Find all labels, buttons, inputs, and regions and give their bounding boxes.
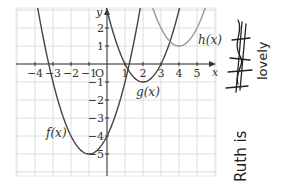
y-tick-label: 2 bbox=[97, 22, 104, 35]
label-gx: g(x) bbox=[136, 85, 160, 99]
handwriting-main: Ruth is bbox=[232, 131, 250, 182]
svg-text:O: O bbox=[95, 67, 104, 80]
svg-text:x: x bbox=[212, 66, 219, 79]
y-tick-label: −4 bbox=[88, 130, 104, 143]
x-tick-label: 2 bbox=[140, 67, 147, 80]
svg-text:y: y bbox=[95, 6, 103, 19]
grid bbox=[16, 8, 216, 176]
y-tick-label: −2 bbox=[88, 94, 104, 107]
x-tick-label: 5 bbox=[194, 67, 201, 80]
label-hx: h(x) bbox=[198, 33, 222, 47]
handwritten-annotation bbox=[226, 20, 252, 92]
axes bbox=[16, 8, 216, 176]
handwriting-side: lovely bbox=[255, 41, 270, 80]
x-tick-label: −3 bbox=[45, 67, 61, 80]
y-tick-label: 1 bbox=[97, 40, 104, 53]
x-tick-label: 4 bbox=[176, 67, 183, 80]
x-tick-label: −4 bbox=[27, 67, 43, 80]
curve-labels: f(x)g(x)h(x) bbox=[45, 33, 222, 140]
x-tick-label: −2 bbox=[63, 67, 79, 80]
y-tick-label: −3 bbox=[88, 112, 104, 125]
label-fx: f(x) bbox=[45, 126, 67, 140]
